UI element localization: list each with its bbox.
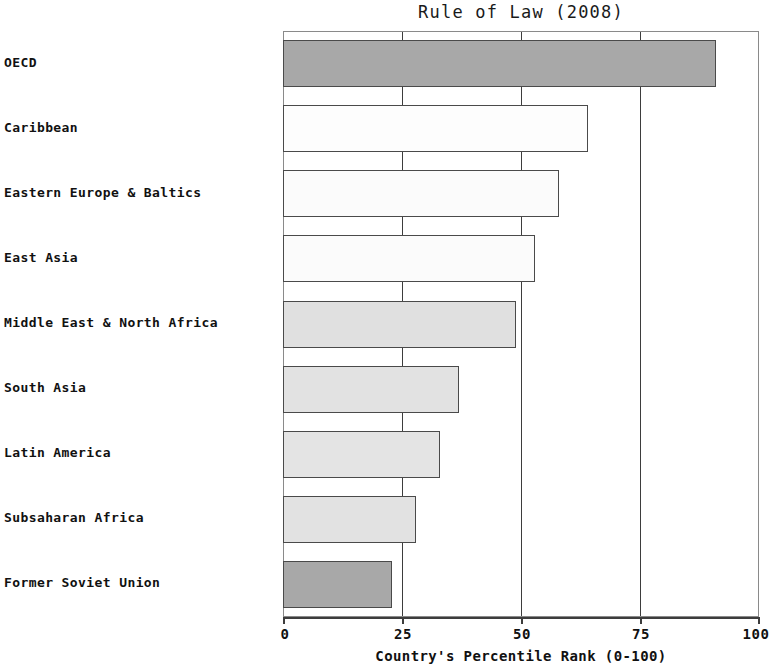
bar-eastern-europe-baltics[interactable] — [283, 170, 559, 217]
bar-caribbean[interactable] — [283, 105, 588, 152]
category-label-former-soviet-union: Former Soviet Union — [4, 575, 273, 590]
x-tick-mark-100 — [758, 617, 760, 624]
bar-latin-america[interactable] — [283, 431, 440, 478]
category-label-oecd: OECD — [4, 55, 273, 70]
category-label-caribbean: Caribbean — [4, 120, 273, 135]
category-label-east-asia: East Asia — [4, 250, 273, 265]
bars-layer — [283, 31, 759, 617]
bar-south-asia[interactable] — [283, 366, 459, 413]
bar-subsaharan-africa[interactable] — [283, 496, 416, 543]
x-tick-mark-0 — [283, 617, 285, 624]
x-tick-mark-25 — [402, 617, 404, 624]
x-tick-label-50: 50 — [513, 626, 531, 642]
x-tick-mark-50 — [521, 617, 523, 624]
x-tick-label-75: 75 — [632, 626, 650, 642]
x-tick-label-25: 25 — [394, 626, 412, 642]
category-axis-labels: OECD Caribbean Eastern Europe & Baltics … — [0, 31, 278, 617]
bar-middle-east-north-africa[interactable] — [283, 301, 516, 348]
x-tick-mark-75 — [640, 617, 642, 624]
x-axis-title: Country's Percentile Rank (0-100) — [283, 648, 759, 664]
category-label-latin-america: Latin America — [4, 445, 273, 460]
category-label-south-asia: South Asia — [4, 380, 273, 395]
category-label-eastern-europe-baltics: Eastern Europe & Baltics — [4, 185, 273, 200]
chart-title: Rule of Law (2008) — [283, 2, 759, 22]
bar-former-soviet-union[interactable] — [283, 561, 392, 608]
x-tick-label-0: 0 — [281, 626, 290, 642]
bar-east-asia[interactable] — [283, 235, 535, 282]
x-tick-label-100: 100 — [743, 626, 770, 642]
chart-figure: Rule of Law (2008) suppose the before vi… — [0, 0, 779, 670]
bar-oecd[interactable] — [283, 40, 716, 87]
category-label-middle-east-north-africa: Middle East & North Africa — [4, 315, 273, 330]
category-label-subsaharan-africa: Subsaharan Africa — [4, 510, 273, 525]
